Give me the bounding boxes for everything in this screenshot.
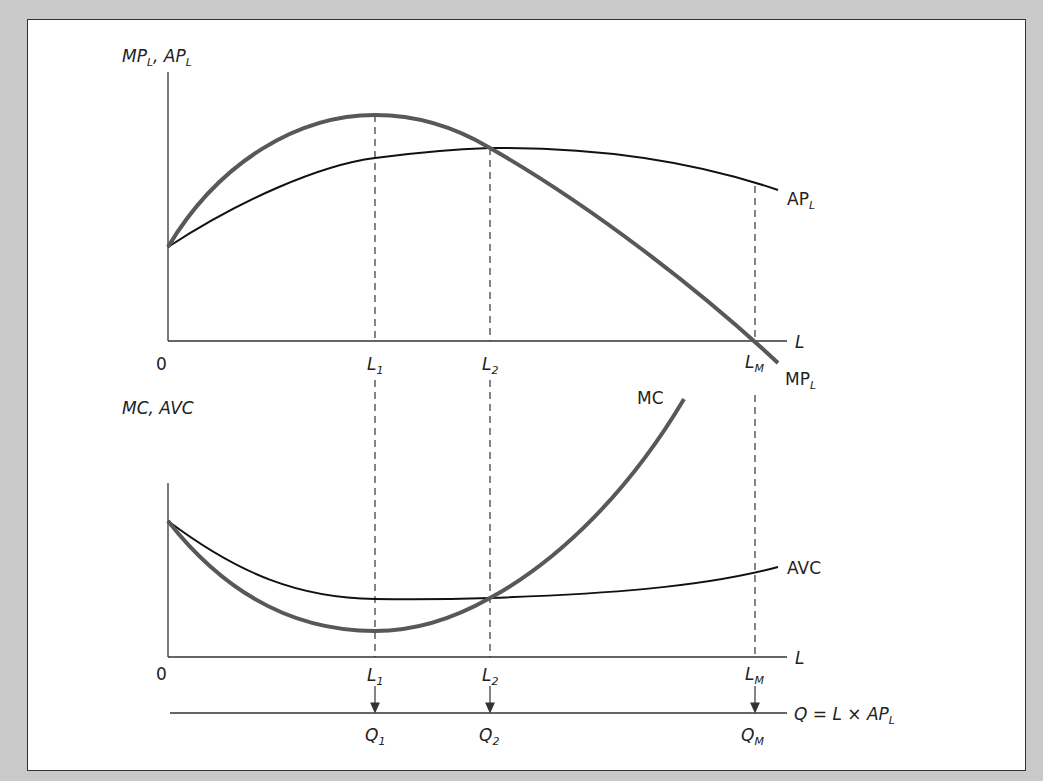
bottom-x-axis-label: L	[795, 648, 804, 668]
output-tick-qm: QM	[741, 725, 764, 748]
top-tick-lm: LM	[745, 352, 764, 375]
output-tick-q2: Q2	[479, 725, 499, 748]
top-origin-label: 0	[156, 354, 167, 374]
bottom-tick-l2: L2	[482, 665, 498, 688]
mc-curve	[168, 399, 684, 631]
top-tick-l1: L1	[367, 354, 383, 377]
top-y-axis-label: MPL, APL	[122, 46, 192, 69]
avc-curve-label: AVC	[787, 558, 821, 578]
bottom-tick-lm: LM	[745, 664, 764, 687]
arrow-head-icon	[751, 703, 759, 712]
output-axis-label: Q = L × APL	[794, 704, 895, 727]
production-cost-diagram: MPL, APL 0 L L1 L2 LM APL MPL MC, AVC MC…	[0, 0, 1043, 781]
arrow-head-icon	[486, 703, 494, 712]
mp-curve-label: MPL	[785, 369, 816, 392]
bottom-tick-l1: L1	[367, 665, 383, 688]
ap-curve-label: APL	[787, 189, 815, 212]
bottom-y-axis-label: MC, AVC	[122, 398, 194, 418]
bottom-origin-label: 0	[156, 664, 167, 684]
top-tick-l2: L2	[482, 354, 498, 377]
arrow-head-icon	[371, 703, 379, 712]
top-x-axis-label: L	[795, 332, 804, 352]
output-tick-q1: Q1	[365, 725, 385, 748]
mc-curve-label: MC	[637, 388, 664, 408]
mp-curve	[168, 115, 778, 363]
avc-curve	[168, 521, 778, 599]
ap-curve	[168, 148, 778, 247]
